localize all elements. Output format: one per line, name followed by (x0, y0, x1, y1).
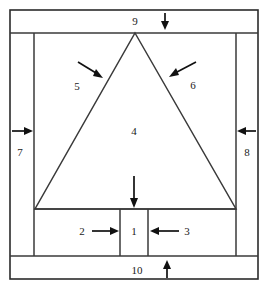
callout-8-arrow (237, 127, 256, 135)
callout-label-4: 4 (131, 126, 137, 137)
callout-2-arrow (92, 227, 119, 235)
callout-6-arrow (169, 62, 196, 77)
callout-label-7: 7 (17, 147, 23, 158)
technical-diagram: 1 2 3 4 5 6 7 8 9 10 (0, 0, 268, 286)
callout-label-5: 5 (74, 81, 80, 92)
callout-label-1: 1 (131, 226, 137, 237)
callout-5-arrow (78, 62, 103, 78)
callout-1-arrow (130, 176, 138, 208)
callout-7-arrow (12, 127, 33, 135)
diagram-canvas (0, 0, 268, 286)
callout-label-9: 9 (132, 16, 138, 27)
callout-label-6: 6 (190, 80, 196, 91)
callout-label-8: 8 (244, 147, 250, 158)
triangle-body (35, 33, 236, 209)
callout-3-arrow (150, 227, 179, 235)
outer-frame (10, 10, 258, 279)
callout-label-10: 10 (132, 265, 143, 276)
callout-9-arrow (161, 13, 169, 30)
callout-10-arrow (163, 260, 171, 278)
callout-label-2: 2 (79, 226, 85, 237)
callout-label-3: 3 (184, 226, 190, 237)
